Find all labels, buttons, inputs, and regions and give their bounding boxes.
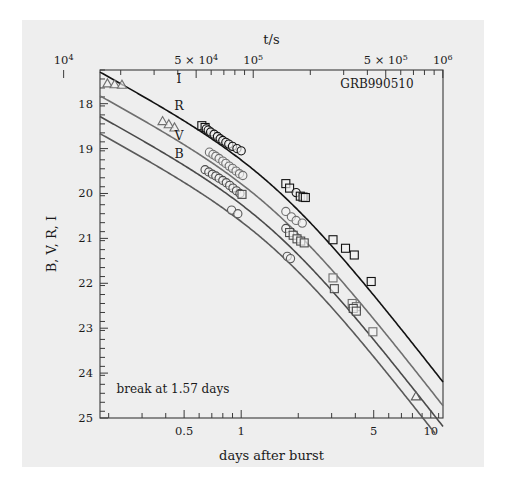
data-point-square <box>330 285 338 293</box>
x-axis-title: days after burst <box>219 448 325 463</box>
data-point-square <box>300 239 308 247</box>
data-point-circle <box>234 210 242 218</box>
y-tick-label: 23 <box>78 321 93 335</box>
y-tick-label: 19 <box>78 142 93 156</box>
data-point-square <box>238 190 246 198</box>
curve-label-b: B <box>174 146 183 161</box>
data-point-square <box>329 236 337 244</box>
data-point-square <box>367 277 375 285</box>
y-tick-label: 21 <box>78 231 93 245</box>
data-point-triangle <box>117 80 126 88</box>
data-point-square <box>342 244 350 252</box>
x-tick-label: 1 <box>238 424 245 438</box>
curve-label-r: R <box>174 98 184 113</box>
plot-frame <box>100 70 443 418</box>
data-point-circle <box>298 219 306 227</box>
x-tick-label: 0.5 <box>175 424 193 438</box>
data-point-square <box>329 274 337 282</box>
y-tick-label: 24 <box>78 366 93 380</box>
top-tick-label: 5 × 104 <box>174 53 218 67</box>
top-tick-label: 5 × 105 <box>364 53 408 67</box>
curve-r <box>100 96 443 406</box>
figure-panel: 0.51510days after burst1045 × 1041055 × … <box>22 20 484 467</box>
y-tick-label: 18 <box>78 97 93 111</box>
top-tick-label: 106 <box>433 53 453 67</box>
data-point-square <box>350 251 358 259</box>
top-axis-title: t/s <box>263 32 279 47</box>
data-point-circle <box>237 147 245 155</box>
curve-i <box>100 72 443 382</box>
y-tick-label: 20 <box>78 186 93 200</box>
x-tick-label: 10 <box>423 424 438 438</box>
y-tick-label: 25 <box>78 411 93 425</box>
data-point-circle <box>239 171 247 179</box>
lightcurve-plot: 0.51510days after burst1045 × 1041055 × … <box>22 20 484 467</box>
data-point-square <box>369 328 377 336</box>
figure-page: 0.51510days after burst1045 × 1041055 × … <box>0 0 506 485</box>
top-tick-label: 104 <box>54 53 74 67</box>
break-time-annotation: break at 1.57 days <box>117 382 230 396</box>
curve-label-i: I <box>177 71 182 86</box>
object-name-annotation: GRB990510 <box>340 77 413 91</box>
data-point-circle <box>286 254 294 262</box>
top-tick-label: 105 <box>243 53 263 67</box>
curve-label-v: V <box>174 128 185 143</box>
y-tick-label: 22 <box>78 276 93 290</box>
x-tick-label: 5 <box>370 424 377 438</box>
data-point-square <box>352 307 360 315</box>
data-point-square <box>301 194 309 202</box>
y-axis-title: B, V, R, I <box>44 216 59 272</box>
data-point-triangle <box>158 117 167 125</box>
